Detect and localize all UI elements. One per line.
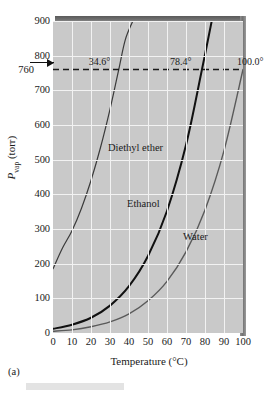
vertical-gridline: [148, 21, 149, 333]
series-label-water: Water: [183, 231, 208, 242]
vertical-gridline: [224, 21, 225, 333]
curve-ethanol: [53, 21, 215, 329]
y-axis-title-subscript: vap: [12, 162, 21, 173]
vertical-gridline: [110, 21, 111, 333]
series-label-diethyl-ether: Diethyl ether: [108, 142, 163, 153]
y-tick-label: 600: [20, 120, 50, 131]
y-tick-label: 900: [20, 16, 50, 27]
reference-line-label: 760: [8, 65, 34, 76]
boiling-point-label-water: 100.0°: [237, 56, 264, 67]
x-axis-title-text: Temperature (°C): [110, 355, 187, 367]
footer-placeholder-bar: [26, 383, 124, 390]
y-axis-title-symbol: P: [5, 173, 17, 180]
panel-caption: (a): [8, 366, 20, 377]
y-axis-title-unit: (torr): [5, 136, 17, 159]
y-tick-label: 700: [20, 85, 50, 96]
boiling-point-label-diethyl-ether: 34.6°: [89, 56, 111, 67]
x-axis-tick-labels: 0102030405060708090100: [0, 336, 267, 350]
y-axis-title: Pvap (torr): [5, 115, 20, 201]
series-label-ethanol: Ethanol: [127, 198, 160, 209]
vertical-gridline: [129, 21, 130, 333]
x-axis-title: Temperature (°C): [53, 355, 245, 367]
y-tick-label: 200: [20, 259, 50, 270]
y-tick-label: 800: [20, 51, 50, 62]
y-tick-label: 400: [20, 189, 50, 200]
vertical-gridline: [186, 21, 187, 333]
boiling-point-label-ethanol: 78.4°: [170, 56, 192, 67]
y-axis-tick-labels: 0100200300400500600700800900: [16, 0, 50, 393]
vertical-gridline: [91, 21, 92, 333]
x-tick-label: 100: [232, 336, 254, 347]
vertical-gridline: [205, 21, 206, 333]
vertical-gridline: [167, 21, 168, 333]
y-tick-label: 300: [20, 224, 50, 235]
y-tick-label: 100: [20, 293, 50, 304]
y-tick-label: 500: [20, 155, 50, 166]
plot-area: [53, 21, 243, 333]
figure-panel-a: 0100200300400500600700800900 760 0102030…: [0, 0, 267, 393]
vertical-gridline: [72, 21, 73, 333]
reference-arrow-head-icon: [47, 59, 54, 67]
